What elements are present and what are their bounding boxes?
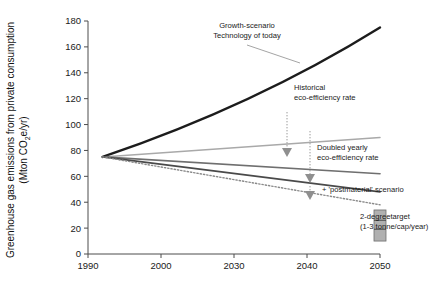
annotation-growth-scenario-line1: Growth-scenario: [219, 21, 275, 30]
x-tick-label: 2050: [369, 260, 390, 271]
annotation-postmaterial: + 'postmaterial' scenario: [322, 185, 404, 194]
chart-figure: Greenhouse gas emissions from private co…: [0, 0, 442, 284]
annotation-growth-scenario-line2: Technology of today: [213, 31, 281, 40]
y-tick-label: 80: [70, 145, 81, 156]
growth-leader-line: [247, 45, 300, 63]
postmaterial-arrow-head: [305, 191, 315, 200]
doubled-arrow-head: [305, 174, 315, 183]
y-tick-label: 40: [70, 197, 81, 208]
annotation-doubled-line1: Doubled yearly: [317, 143, 368, 152]
y-axis-title: Greenhouse gas emissions from private co…: [5, 22, 31, 258]
target-label-line1: 2-degreetarget: [360, 212, 411, 221]
y-axis-title-unit-b: e/yr): [18, 116, 29, 136]
x-tick-label: 2040: [296, 260, 317, 271]
y-axis-title-line1: Greenhouse gas emissions from private co…: [5, 22, 16, 258]
y-axis-title-line2: (Mton CO2e/yr): [18, 116, 31, 183]
chart-canvas: Greenhouse gas emissions from private co…: [0, 0, 442, 284]
y-tick-label: 0: [76, 248, 81, 259]
data-series-layer: [103, 27, 380, 204]
x-tick-label: 2030: [223, 260, 244, 271]
series-line-4: [103, 157, 380, 205]
y-tick-label: 140: [65, 67, 81, 78]
y-tick-label: 160: [65, 41, 81, 52]
axes: [88, 21, 380, 254]
y-tick-label: 20: [70, 223, 81, 234]
y-tick-label: 180: [65, 15, 81, 26]
x-tick-label: 2000: [150, 260, 171, 271]
y-axis-ticks: 020406080100120140160180: [65, 15, 88, 259]
y-tick-label: 100: [65, 119, 81, 130]
annotation-doubled-line2: eco-efficiency rate: [317, 153, 378, 162]
y-axis-title-unit-a: (Mton CO: [18, 140, 29, 184]
target-label-line2: (1-3 tonne/cap/year): [360, 222, 429, 231]
y-tick-label: 60: [70, 171, 81, 182]
historical-arrow-head: [282, 148, 292, 157]
annotation-historical-line2: eco-efficiency rate: [294, 93, 355, 102]
x-axis-ticks: 19902000203020402050: [77, 254, 390, 271]
annotations: Growth-scenario Technology of today Hist…: [213, 21, 429, 231]
x-tick-label: 1990: [77, 260, 98, 271]
y-tick-label: 120: [65, 93, 81, 104]
annotation-historical-line1: Historical: [294, 83, 326, 92]
